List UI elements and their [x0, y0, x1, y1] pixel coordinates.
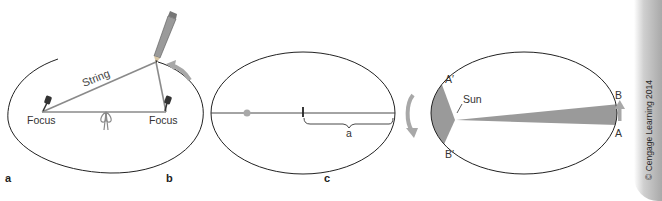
label-semi-major-a: a	[346, 127, 352, 139]
panel-b: a	[211, 52, 395, 174]
panel-label-a: a	[5, 172, 11, 184]
panel-a: String Focus Focus	[8, 11, 203, 173]
panel-label-b: b	[166, 172, 173, 184]
label-focus-right: Focus	[149, 114, 178, 126]
label-string: String	[80, 67, 111, 89]
sector-aprime-bprime	[420, 82, 455, 151]
credit-text: © Cengage Learning 2014	[644, 80, 654, 180]
label-focus-left: Focus	[27, 114, 56, 126]
panel-c: A′ Sun B′ B A	[406, 52, 625, 174]
arrow-icon-b-up	[618, 107, 622, 121]
focus-dot	[244, 110, 251, 117]
copyright-credit: © Cengage Learning 2014	[637, 80, 661, 180]
string-right	[156, 62, 166, 112]
label-b: B	[615, 89, 622, 101]
label-b-prime: B′	[445, 148, 454, 160]
pin-icon-right	[164, 95, 172, 111]
label-a: A	[615, 127, 622, 139]
sector-a-b	[456, 104, 620, 125]
sun-pointer	[457, 104, 462, 113]
label-a-prime: A′	[445, 73, 454, 85]
arrowhead-c-left	[406, 128, 418, 138]
arrow-icon-left-orbit	[408, 95, 413, 131]
ellipse-diagram: String Focus Focus a A′ Sun	[0, 0, 662, 201]
knot-icon	[101, 112, 111, 130]
pencil-icon	[154, 11, 177, 63]
panel-label-c: c	[324, 172, 330, 184]
label-sun: Sun	[463, 93, 482, 105]
